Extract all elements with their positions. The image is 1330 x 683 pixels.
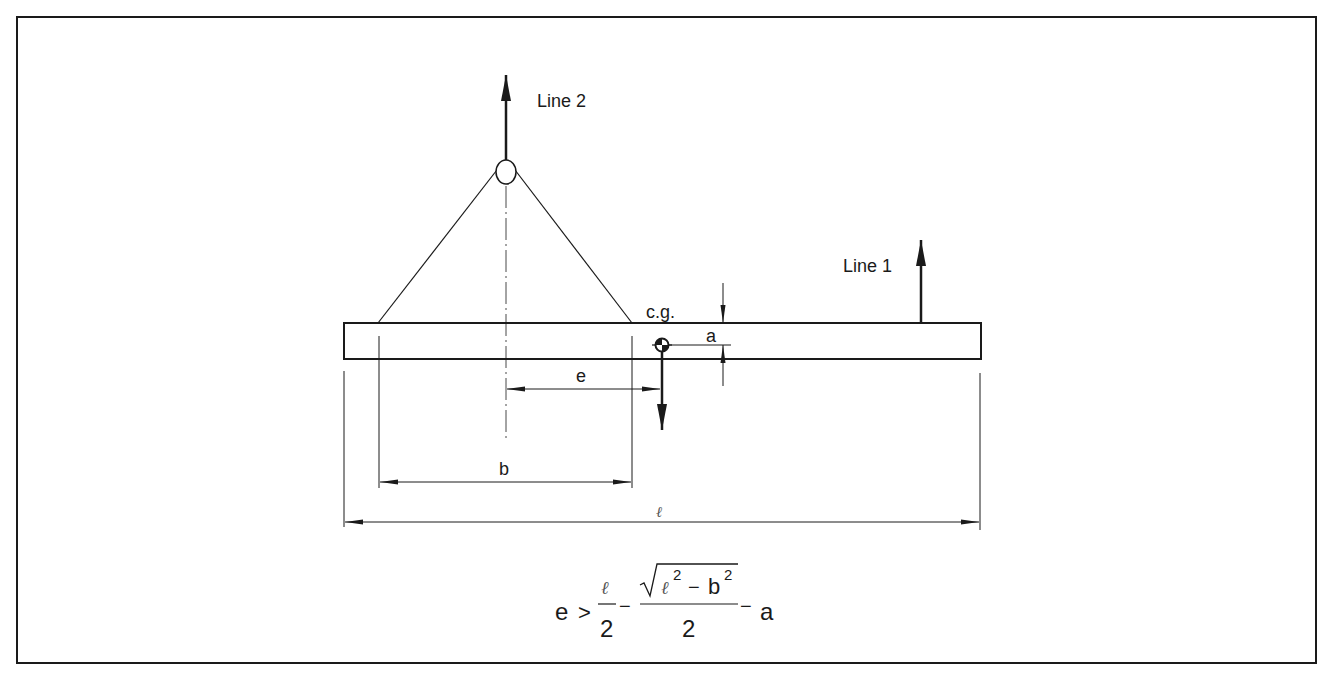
formula-term1-numerator: ℓ — [601, 577, 609, 598]
formula-exp-a: 2 — [673, 566, 681, 583]
formula-relation: > — [578, 600, 591, 625]
formula-radicand-minus: − — [688, 576, 700, 598]
sling-left — [378, 166, 500, 323]
formula-radicand-a: ℓ — [661, 577, 669, 598]
dim-e-arrow-left-icon — [507, 387, 525, 392]
dim-b-arrow-left-icon — [380, 480, 398, 485]
formula-lhs: e — [555, 598, 568, 625]
sling-right — [512, 166, 632, 323]
formula-exp-b: 2 — [724, 566, 732, 583]
formula-tail: a — [760, 598, 774, 625]
dim-e-label: e — [576, 366, 586, 386]
formula-term1-denominator: 2 — [600, 615, 613, 642]
formula: e > ℓ 2 − ℓ 2 − b 2 2 − a — [555, 564, 774, 642]
formula-minus2: − — [740, 595, 752, 617]
dim-l-label: ℓ — [656, 503, 662, 521]
line1-label: Line 1 — [843, 256, 892, 276]
formula-radicand-b: b — [708, 574, 720, 599]
hook-ring-icon — [496, 160, 516, 184]
formula-minus1: − — [619, 595, 631, 617]
dim-l-arrow-left-icon — [345, 520, 363, 525]
line2-label: Line 2 — [537, 91, 586, 111]
dim-a-label: a — [706, 326, 717, 346]
dim-b-label: b — [499, 459, 509, 479]
cg-label: c.g. — [646, 302, 675, 322]
formula-term2-denominator: 2 — [682, 615, 695, 642]
lifting-diagram: Line 2 Line 1 c.g. a e b ℓ e > ℓ 2 — [0, 0, 1330, 683]
